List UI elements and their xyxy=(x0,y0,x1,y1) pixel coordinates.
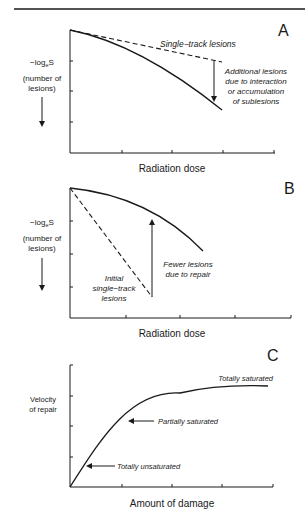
svg-text:or accumulation: or accumulation xyxy=(228,87,285,96)
panel-letter-b: B xyxy=(284,180,295,197)
panel-letter-a: A xyxy=(278,22,289,39)
svg-text:single−track: single−track xyxy=(93,284,137,293)
svg-text:lesions): lesions) xyxy=(28,244,56,253)
svg-text:Velocity: Velocity xyxy=(30,395,56,404)
annotation-initial-single-track: Initial single−track lesions xyxy=(93,274,137,303)
repair-velocity-curve xyxy=(70,386,268,487)
y-axis-label: −logeS (number of lesions) xyxy=(23,218,62,253)
svg-text:Initial: Initial xyxy=(105,274,124,283)
panel-letter-c: C xyxy=(267,347,279,364)
annotation-single-track: Single−track lesions xyxy=(160,39,237,49)
panel-b: B Initial single−track lesions Fewer les… xyxy=(23,180,295,339)
svg-text:lesions): lesions) xyxy=(28,84,56,93)
annotation-totally-saturated: Totally saturated xyxy=(218,374,274,383)
figure-canvas: A Single−track lesions Additional lesion… xyxy=(0,0,308,520)
x-axis-label: Radiation dose xyxy=(139,163,206,174)
annotation-totally-unsaturated: Totally unsaturated xyxy=(117,462,181,471)
svg-text:(number of: (number of xyxy=(23,234,62,243)
x-axis-label: Radiation dose xyxy=(139,328,206,339)
annotation-additional: Additional lesions due to interaction or… xyxy=(224,67,287,106)
svg-text:of repair: of repair xyxy=(29,405,57,414)
svg-text:−logeS: −logeS xyxy=(30,58,54,68)
y-axis-label: −logeS (number of lesions) xyxy=(23,58,62,93)
svg-text:lesions: lesions xyxy=(102,294,127,303)
annotation-fewer-lesions: Fewer lesions due to repair xyxy=(163,260,212,279)
svg-text:(number of: (number of xyxy=(23,74,62,83)
panel-c: C Totally saturated Partially saturated … xyxy=(29,347,278,509)
annotation-partially-saturated: Partially saturated xyxy=(158,417,219,426)
svg-text:due to repair: due to repair xyxy=(166,270,211,279)
svg-text:−logeS: −logeS xyxy=(30,218,54,228)
x-axis-label: Amount of damage xyxy=(130,498,215,509)
svg-text:Additional lesions: Additional lesions xyxy=(224,67,287,76)
panel-a: A Single−track lesions Additional lesion… xyxy=(23,22,289,174)
svg-text:due to interaction: due to interaction xyxy=(225,77,287,86)
svg-text:Fewer lesions: Fewer lesions xyxy=(163,260,212,269)
solid-curve xyxy=(70,188,203,251)
y-axis-label: Velocity of repair xyxy=(29,395,57,414)
svg-text:of sublesions: of sublesions xyxy=(233,97,280,106)
